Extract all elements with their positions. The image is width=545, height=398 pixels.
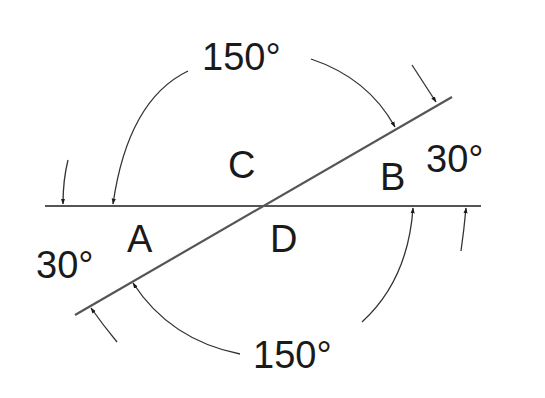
top-angle-label: 150° xyxy=(202,36,281,78)
point-label-b: B xyxy=(380,156,405,198)
lower-right-arrow xyxy=(461,208,466,251)
left-upper-arrow xyxy=(63,160,68,204)
right-angle-label: 30° xyxy=(426,138,483,180)
lower-left-arrow xyxy=(91,308,117,342)
point-label-c: C xyxy=(228,144,255,186)
left-angle-label: 30° xyxy=(36,244,93,286)
top-angle-arc-right xyxy=(311,59,395,127)
bottom-angle-arc-right xyxy=(362,208,413,322)
angle-diagram: 150° 30° 30° 150° C B A D xyxy=(0,0,545,398)
top-angle-arc-left xyxy=(113,71,188,204)
upper-right-arrow xyxy=(412,65,436,102)
point-label-d: D xyxy=(270,218,297,260)
bottom-angle-arc-left xyxy=(133,283,240,354)
point-label-a: A xyxy=(127,218,153,260)
bottom-angle-label: 150° xyxy=(253,334,332,376)
